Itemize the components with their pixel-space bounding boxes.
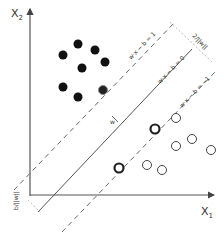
lower-margin-label: w·x − b = −1 [178,74,211,108]
filled-support-vector [99,86,108,95]
normal-vector-label: w [110,118,115,125]
offset-label: b/||w|| [12,191,20,210]
margin-width-label: 2/||w|| [191,32,210,51]
x-axis-label: X1 [201,205,213,220]
offset-bracket [28,200,40,212]
open-support-vectors [115,125,160,173]
y-axis-label: X2 [11,7,23,22]
class-open-points [143,114,216,175]
svm-diagram: X2 X1 2/||w|| b/||w|| w·x − b = 1 w·x − … [0,0,224,241]
hyperplane-label: w·x − b = 0 [156,54,186,85]
